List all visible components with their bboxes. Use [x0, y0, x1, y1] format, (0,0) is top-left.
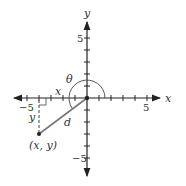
right-angle-marker [39, 98, 46, 105]
point-xy [37, 132, 41, 136]
horizontal-segment-label: x [55, 85, 62, 98]
x-axis-label: x [165, 92, 172, 105]
point-label: (x, y) [29, 139, 57, 152]
vertical-segment-label: y [28, 111, 36, 124]
coordinate-diagram: x y −5 5 5 −5 θ x y d (x, y) [0, 0, 186, 186]
y-axis-label: y [83, 7, 91, 20]
distance-label: d [64, 116, 71, 129]
origin-point [85, 96, 89, 100]
tick-label-y-neg5: −5 [72, 153, 87, 164]
tick-label-y-5: 5 [77, 33, 83, 44]
angle-label: θ [66, 73, 73, 86]
tick-label-x-5: 5 [143, 102, 149, 113]
